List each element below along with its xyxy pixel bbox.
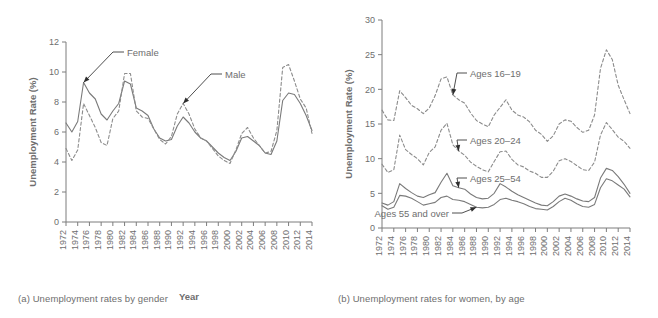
- x-tick-label: 2002: [234, 230, 244, 250]
- x-tick-label: 1982: [433, 236, 443, 256]
- annotation-label: Ages 25–54: [470, 173, 521, 184]
- x-tick-label: 2008: [269, 230, 279, 250]
- y-tick-label: 20: [365, 85, 375, 95]
- arrowhead-icon: [452, 89, 457, 95]
- x-tick-label: 1988: [152, 230, 162, 250]
- x-tick-label: 2014: [622, 236, 632, 256]
- annotation-label: Ages 55 and over: [375, 208, 449, 219]
- series-line-male: [66, 65, 312, 164]
- leader-line: [84, 52, 124, 83]
- x-tick-label: 2004: [563, 236, 573, 256]
- panel-b-caption: (b) Unemployment rates for women, by age: [338, 293, 525, 304]
- x-tick-label: 2012: [292, 230, 302, 250]
- series-line-ages-20-24: [382, 123, 630, 178]
- x-tick-label: 2004: [245, 230, 255, 250]
- annotation-label: Ages 20–24: [470, 135, 521, 146]
- annotation-label: Male: [225, 69, 246, 80]
- chart-b-canvas: 0510152025301972197419761978198019821984…: [330, 0, 658, 300]
- x-tick-label: 1992: [492, 236, 502, 256]
- x-tick-label: 1972: [374, 236, 384, 256]
- x-tick-label: 2002: [551, 236, 561, 256]
- x-tick-label: 1998: [210, 230, 220, 250]
- x-tick-label: 1996: [516, 236, 526, 256]
- y-tick-label: 12: [49, 37, 59, 47]
- arrowhead-icon: [470, 207, 476, 211]
- y-tick-label: 10: [49, 67, 59, 77]
- x-tick-label: 2012: [610, 236, 620, 256]
- unemployment-rates-figure: 0246810121972197419761978198019821984198…: [0, 0, 658, 318]
- x-tick-label: 1978: [409, 236, 419, 256]
- x-tick-label: 1982: [117, 230, 127, 250]
- panel-a-caption: (a) Unemployment rates by gender: [18, 293, 168, 304]
- annotation-ages-55-and-over: Ages 55 and over: [375, 207, 477, 218]
- chart-panel-b: 0510152025301972197419761978198019821984…: [330, 0, 658, 318]
- x-tick-label: 1990: [480, 236, 490, 256]
- x-tick-label: 1990: [163, 230, 173, 250]
- x-tick-label: 1976: [81, 230, 91, 250]
- chart-a-canvas: 0246810121972197419761978198019821984198…: [0, 0, 330, 300]
- y-tick-label: 25: [365, 50, 375, 60]
- x-tick-label: 1994: [187, 230, 197, 250]
- x-tick-label: 1998: [528, 236, 538, 256]
- y-tick-label: 0: [370, 223, 375, 233]
- annotation-ages-20-24: Ages 20–24: [455, 135, 520, 152]
- annotation-female: Female: [84, 47, 159, 83]
- annotation-ages-25-54: Ages 25–54: [455, 173, 520, 188]
- x-tick-label: 1980: [105, 230, 115, 250]
- y-axis-title: Unemployment Rate (%): [27, 77, 38, 186]
- series-line-female: [66, 81, 312, 161]
- leader-line: [183, 74, 222, 104]
- chart-panel-a: 0246810121972197419761978198019821984198…: [0, 0, 330, 318]
- x-tick-label: 1974: [70, 230, 80, 250]
- y-tick-label: 6: [54, 127, 59, 137]
- x-tick-label: 2006: [257, 230, 267, 250]
- x-tick-label: 1972: [58, 230, 68, 250]
- x-tick-label: 1988: [468, 236, 478, 256]
- series-line-ages-16-19: [382, 50, 630, 142]
- y-tick-label: 5: [370, 189, 375, 199]
- x-tick-label: 1984: [445, 236, 455, 256]
- x-tick-label: 1976: [398, 236, 408, 256]
- y-tick-label: 2: [54, 187, 59, 197]
- y-tick-label: 15: [365, 119, 375, 129]
- y-tick-label: 4: [54, 157, 59, 167]
- x-tick-label: 1992: [175, 230, 185, 250]
- x-tick-label: 2000: [222, 230, 232, 250]
- annotation-male: Male: [183, 69, 245, 104]
- x-tick-label: 2000: [539, 236, 549, 256]
- x-tick-label: 1996: [199, 230, 209, 250]
- x-tick-label: 2008: [587, 236, 597, 256]
- y-axis-title: Unemployment Rate (%): [343, 69, 354, 178]
- x-tick-label: 2006: [575, 236, 585, 256]
- x-tick-label: 1980: [421, 236, 431, 256]
- annotation-label: Ages 16–19: [470, 68, 521, 79]
- annotation-ages-16-19: Ages 16–19: [452, 68, 521, 95]
- x-tick-label: 1994: [504, 236, 514, 256]
- x-axis-title: Year: [179, 291, 199, 300]
- x-tick-label: 1974: [386, 236, 396, 256]
- x-tick-label: 2010: [598, 236, 608, 256]
- y-tick-label: 0: [54, 217, 59, 227]
- x-tick-label: 1984: [128, 230, 138, 250]
- y-tick-label: 10: [365, 154, 375, 164]
- leader-line: [453, 73, 467, 95]
- x-tick-label: 1986: [140, 230, 150, 250]
- x-tick-label: 1986: [457, 236, 467, 256]
- x-tick-label: 1978: [93, 230, 103, 250]
- x-tick-label: 2010: [281, 230, 291, 250]
- y-tick-label: 30: [365, 15, 375, 25]
- x-tick-label: 2014: [304, 230, 314, 250]
- y-tick-label: 8: [54, 97, 59, 107]
- annotation-label: Female: [127, 47, 159, 58]
